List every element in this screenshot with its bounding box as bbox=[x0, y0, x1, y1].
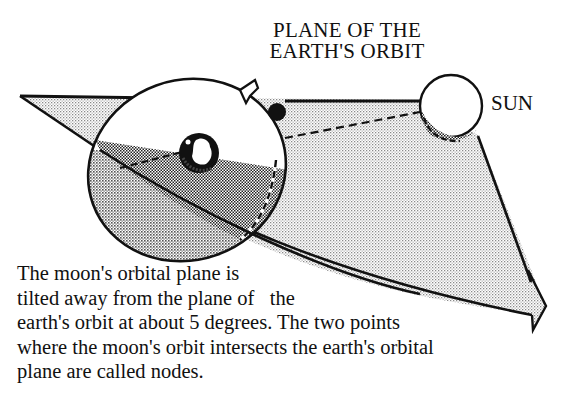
title-line-1: PLANE OF THE bbox=[222, 20, 472, 41]
sun-label: SUN bbox=[491, 93, 533, 114]
caption-line-5: plane are called nodes. bbox=[17, 359, 434, 384]
earth-orbit-plane-title: PLANE OF THE EARTH'S ORBIT bbox=[222, 20, 472, 62]
sun-icon bbox=[420, 75, 482, 141]
diagram-caption: The moon's orbital plane is tilted away … bbox=[17, 261, 434, 384]
caption-line-1: The moon's orbital plane is bbox=[17, 261, 434, 286]
caption-line-3: earth's orbit at about 5 degrees. The tw… bbox=[17, 310, 434, 335]
earth-icon bbox=[179, 133, 219, 173]
caption-line-4: where the moon's orbit intersects the ea… bbox=[17, 335, 434, 360]
moon-icon bbox=[268, 103, 286, 121]
caption-line-2: tilted away from the plane of the bbox=[17, 286, 434, 311]
title-line-2: EARTH'S ORBIT bbox=[222, 41, 472, 62]
